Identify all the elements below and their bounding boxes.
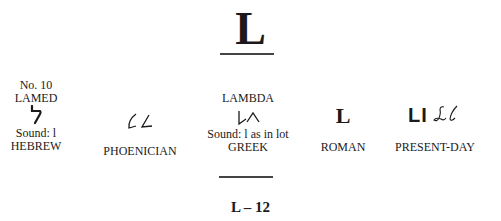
roman-label: ROMAN — [315, 141, 371, 154]
greek-column: LAMBDA Sound: l as in lot GREEK — [196, 92, 300, 154]
phoenician-glyph — [100, 111, 180, 145]
hebrew-column: No. 10 LAMED Sound: l HEBREW — [5, 79, 67, 153]
phoenician-label: PHOENICIAN — [100, 145, 180, 158]
hebrew-label: HEBREW — [5, 140, 67, 153]
roman-column: L ROMAN — [315, 104, 371, 154]
present-day-glyphs: LI — [385, 104, 485, 141]
greek-label: GREEK — [196, 141, 300, 154]
phoenician-column: PHOENICIAN — [100, 107, 180, 158]
present-day-print-glyph: LI — [408, 104, 428, 126]
title-underline — [220, 53, 274, 55]
title-letter: L — [0, 4, 501, 54]
present-day-column: LI PRESENT-DAY — [385, 104, 485, 154]
present-day-label: PRESENT-DAY — [385, 141, 485, 154]
greek-name: LAMBDA — [196, 92, 300, 105]
footer-rule — [219, 176, 273, 178]
present-day-script-glyph — [432, 104, 462, 124]
hebrew-glyph — [5, 105, 67, 127]
greek-glyph — [196, 107, 300, 128]
page-number: L – 12 — [0, 199, 501, 216]
roman-glyph: L — [315, 104, 371, 141]
hebrew-name: LAMED — [5, 92, 67, 105]
